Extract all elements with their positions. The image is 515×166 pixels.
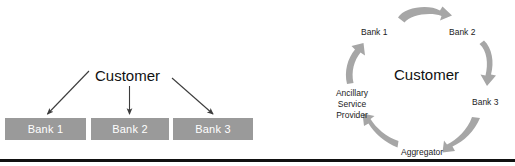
cycle-node-bank-2: Bank 2	[449, 27, 475, 38]
bank-box-3-label: Bank 3	[195, 123, 230, 135]
figure-canvas: Customer Bank 1 Bank 2 Bank 3 Customer B…	[0, 0, 515, 166]
cycle-node-ancillary-service-provider: Ancillary Service Provider	[328, 88, 376, 121]
cycle-node-bank-3: Bank 3	[472, 97, 498, 108]
arrow-customer-to-bank-3	[172, 78, 213, 114]
cycle-arrow-bank3-to-aggregator	[443, 117, 481, 153]
asp-label-line-1: Ancillary	[328, 88, 376, 99]
bank-box-1: Bank 1	[5, 118, 86, 140]
arrow-customer-to-bank-1	[48, 71, 90, 114]
cycle-arrow-bank1-to-bank2	[398, 7, 452, 23]
asp-label-line-2: Service	[328, 99, 376, 110]
cycle-node-aggregator: Aggregator	[401, 147, 443, 158]
bank-box-1-label: Bank 1	[28, 123, 63, 135]
bank-box-3: Bank 3	[173, 118, 253, 140]
cycle-customer-label: Customer	[394, 66, 459, 83]
bank-box-2-label: Bank 2	[112, 123, 147, 135]
cycle-arrow-asp-to-bank1	[346, 43, 365, 84]
figure-vector-layer	[0, 0, 515, 166]
bottom-divider	[0, 159, 515, 162]
left-customer-label: Customer	[95, 67, 160, 84]
cycle-node-bank-1: Bank 1	[361, 27, 387, 38]
bank-box-2: Bank 2	[91, 118, 169, 140]
asp-label-line-3: Provider	[328, 110, 376, 121]
cycle-arrow-bank2-to-bank3	[480, 41, 497, 87]
